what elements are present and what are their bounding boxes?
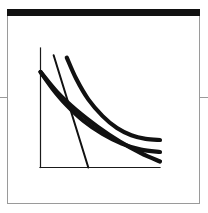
plot-area bbox=[7, 9, 200, 204]
chart-svg bbox=[7, 9, 200, 204]
screenshot-root bbox=[0, 0, 208, 213]
edge-tick-right bbox=[199, 97, 208, 98]
chart-series-curve-upper bbox=[67, 58, 160, 140]
curves-group bbox=[41, 55, 161, 167]
